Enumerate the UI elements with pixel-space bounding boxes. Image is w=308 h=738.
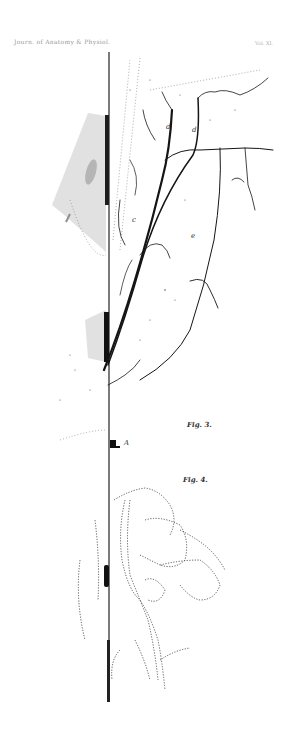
marker-a-label: A (124, 439, 129, 447)
fig4-caption: Fig. 4. (183, 475, 208, 484)
shaded-tissue-lower (85, 310, 106, 362)
marker-block (110, 440, 116, 446)
label-e: e (191, 232, 195, 240)
label-c: c (132, 216, 136, 224)
fig3-caption: Fig. 3. (187, 420, 212, 429)
shaded-tissue-upper (52, 113, 106, 252)
fig4-dotted-network (78, 488, 225, 690)
fig3-vessels (104, 78, 273, 385)
label-d1: d (166, 123, 170, 131)
label-d2: d (192, 126, 196, 134)
illustration-plate (0, 0, 308, 738)
